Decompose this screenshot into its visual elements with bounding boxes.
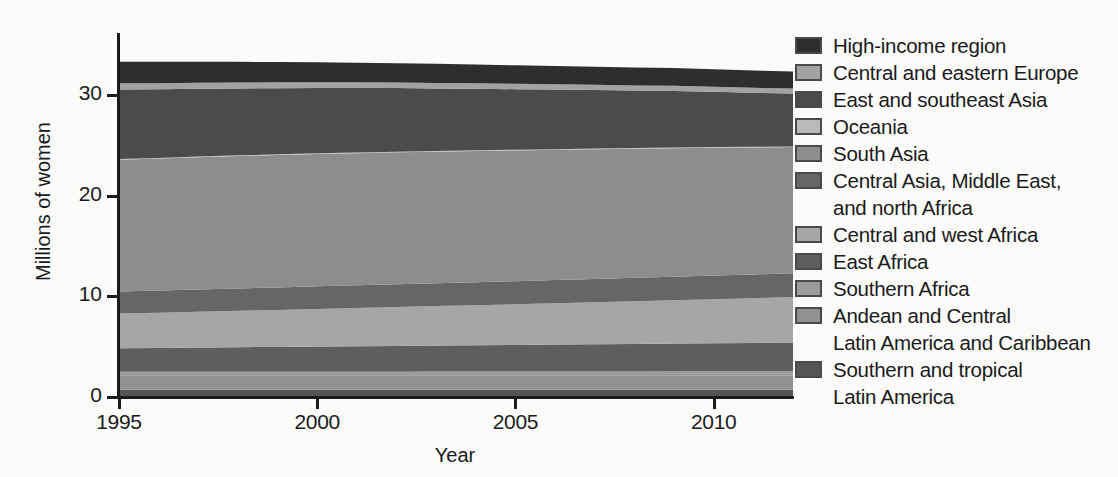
legend-item-label: South Asia — [833, 141, 929, 166]
legend-swatch-icon — [795, 361, 822, 378]
y-axis-tick — [107, 195, 118, 198]
legend-item[interactable]: Central and eastern Europe — [795, 60, 1115, 86]
legend-item[interactable]: East Africa — [795, 249, 1115, 275]
legend-swatch-icon — [795, 118, 822, 135]
x-axis-tick-label: 2005 — [470, 410, 560, 434]
legend-swatch-icon — [795, 64, 822, 81]
y-axis-tick-label: 10 — [52, 282, 102, 306]
y-axis-tick-label: 20 — [52, 182, 102, 206]
legend-swatch-icon — [795, 172, 822, 189]
y-axis-tick — [107, 295, 118, 298]
x-axis-tick-label: 1995 — [74, 410, 164, 434]
y-axis-title: Millions of women — [32, 87, 55, 317]
area-band — [119, 147, 793, 291]
x-axis-tick — [713, 398, 716, 409]
legend-swatch-icon — [795, 307, 822, 324]
legend-item-continuation: Latin America — [795, 384, 1115, 410]
legend-item-label-line2: Latin America and Caribbean — [833, 330, 1091, 355]
legend-swatch-icon — [795, 280, 822, 297]
legend-item-label: High-income region — [833, 33, 1006, 58]
x-axis-tick — [316, 398, 319, 409]
y-axis-tick — [107, 94, 118, 97]
legend-item[interactable]: Central and west Africa — [795, 222, 1115, 248]
legend-item-label: Southern Africa — [833, 276, 969, 301]
x-axis-title: Year — [330, 444, 580, 467]
legend-item-label-line2: and north Africa — [833, 195, 973, 220]
legend-swatch-spacer — [795, 334, 822, 351]
stacked-area-svg — [119, 35, 793, 397]
x-axis-tick — [514, 398, 517, 409]
y-axis-tick-label: 0 — [52, 383, 102, 407]
legend-item[interactable]: Southern Africa — [795, 276, 1115, 302]
legend-item-label: Southern and tropical — [833, 357, 1023, 382]
x-axis-tick — [118, 398, 121, 409]
legend-swatch-spacer — [795, 199, 822, 216]
legend-item-label: East and southeast Asia — [833, 87, 1047, 112]
legend-swatch-icon — [795, 145, 822, 162]
legend-item-continuation: Latin America and Caribbean — [795, 330, 1115, 356]
legend-item[interactable]: East and southeast Asia — [795, 87, 1115, 113]
y-axis-line — [117, 33, 120, 399]
figure-stacked-area-chart: 0102030 1995200020052010 Millions of wom… — [0, 0, 1118, 477]
legend-item-label: Central and eastern Europe — [833, 60, 1078, 85]
legend-item[interactable]: Central Asia, Middle East, — [795, 168, 1115, 194]
legend-swatch-spacer — [795, 388, 822, 405]
legend-item-continuation: and north Africa — [795, 195, 1115, 221]
x-axis-tick-label: 2010 — [669, 410, 759, 434]
x-axis-tick-label: 2000 — [272, 410, 362, 434]
plot-area — [119, 35, 793, 397]
area-band — [119, 371, 793, 375]
legend-item[interactable]: High-income region — [795, 33, 1115, 59]
y-axis-tick-label: 30 — [52, 81, 102, 105]
legend-item[interactable]: Andean and Central — [795, 303, 1115, 329]
legend-swatch-icon — [795, 226, 822, 243]
legend-item[interactable]: Southern and tropical — [795, 357, 1115, 383]
legend-item-label-line2: Latin America — [833, 384, 954, 409]
x-axis-line — [117, 396, 794, 399]
legend-item[interactable]: Oceania — [795, 114, 1115, 140]
legend-swatch-icon — [795, 37, 822, 54]
legend-item-label: Central Asia, Middle East, — [833, 168, 1061, 193]
legend-item-label: Oceania — [833, 114, 908, 139]
legend: High-income regionCentral and eastern Eu… — [795, 33, 1115, 411]
legend-item-label: Andean and Central — [833, 303, 1011, 328]
legend-item[interactable]: South Asia — [795, 141, 1115, 167]
legend-swatch-icon — [795, 253, 822, 270]
y-axis-tick — [107, 396, 118, 399]
area-band — [119, 375, 793, 390]
legend-swatch-icon — [795, 91, 822, 108]
legend-item-label: Central and west Africa — [833, 222, 1038, 247]
legend-item-label: East Africa — [833, 249, 928, 274]
